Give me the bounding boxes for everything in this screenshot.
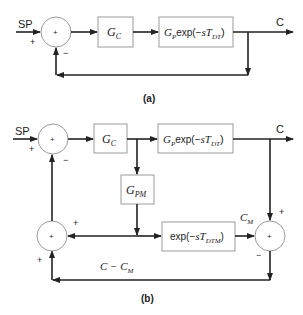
control-block-diagrams: SP + + − GC GPexp(−sTDT) C (a) SP + + − … [0,0,303,315]
sign-minus-feedback-b: − [63,155,68,165]
sign-minus-feedback-a: − [63,48,68,58]
caption-b: (b) [141,293,154,304]
summer-center-sign-a: + [53,28,58,37]
sign-plus-right-feedback-b: + [73,218,78,228]
error-signal-label: C − CM [100,260,135,275]
sign-plus-input-a: + [30,37,35,47]
output-label-b: C [276,123,284,135]
setpoint-label-a: SP [18,18,33,30]
diagram-a: SP + + − GC GPexp(−sTDT) C (a) [16,16,293,104]
diagram-b: SP + + − GC GPexp(−sTDT) C GPM exp(−sTDT… [13,123,293,304]
summer-main-center-sign-b: + [50,135,55,144]
sign-plus-top-model-b: + [279,207,284,217]
caption-a: (a) [143,93,155,104]
summer-feedback-center-sign-b: + [49,232,54,241]
model-output-signal-label: CM [240,211,254,226]
output-label-a: C [276,16,284,28]
sign-plus-bottom-feedback-b: + [37,255,42,265]
summer-model-center-sign-b: + [267,232,272,241]
sign-plus-input-b: + [29,144,34,154]
setpoint-label-b: SP [15,125,30,137]
sign-minus-bottom-model-b: − [256,250,261,260]
